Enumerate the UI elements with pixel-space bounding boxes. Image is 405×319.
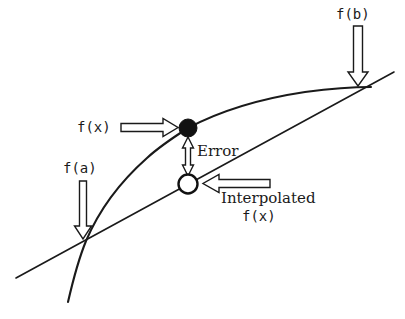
filled-circle-marker xyxy=(179,119,197,137)
arrow-down-icon-fa xyxy=(75,181,92,239)
label-f-x: f(x) xyxy=(77,120,111,134)
label-f-b: f(b) xyxy=(336,7,370,21)
function-curve xyxy=(68,87,371,302)
interpolation-error-diagram: f(b) f(a) f(x) Error Interpolated f(x) xyxy=(0,0,405,319)
label-f-a: f(a) xyxy=(63,161,97,175)
hollow-circle-marker xyxy=(179,175,198,194)
arrow-right-icon-fx xyxy=(121,119,178,137)
arrow-up-down-icon-error xyxy=(183,137,194,176)
label-interpolated-f-x: f(x) xyxy=(242,209,276,223)
arrow-down-icon-fb xyxy=(348,26,368,86)
label-interpolated: Interpolated xyxy=(221,191,316,206)
label-error: Error xyxy=(197,144,239,159)
